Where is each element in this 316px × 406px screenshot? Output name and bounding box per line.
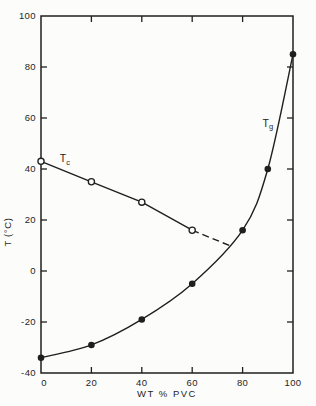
plot-frame: [41, 16, 293, 373]
tc-data-point-open-circle: [38, 158, 44, 164]
y-tick-label: 100: [19, 10, 36, 21]
tg-data-point-filled-circle: [239, 227, 246, 234]
tg-data-point-filled-circle: [290, 51, 297, 58]
tc-line: [41, 161, 192, 230]
tg-data-point-filled-circle: [265, 166, 272, 173]
tg-data-point-filled-circle: [88, 342, 95, 349]
tc-data-point-open-circle: [139, 199, 145, 205]
x-tick-label: 20: [86, 377, 97, 388]
tc-series-label: Tc: [60, 152, 70, 167]
x-tick-label: 0: [41, 377, 47, 388]
x-tick-label: 60: [187, 377, 198, 388]
tg-curve: [41, 54, 293, 357]
x-tick-label: 80: [237, 377, 248, 388]
y-axis-label: T (°C): [2, 218, 13, 247]
tg-data-point-filled-circle: [139, 316, 146, 323]
tc-data-point-open-circle: [88, 179, 94, 185]
x-tick-label: 40: [136, 377, 147, 388]
y-tick-label: 60: [25, 112, 36, 123]
y-tick-label: -40: [21, 367, 36, 378]
tc-dashed-extrapolation: [192, 230, 232, 247]
x-axis-label: WT % PVC: [137, 388, 197, 399]
y-tick-label: -20: [21, 316, 36, 327]
y-tick-label: 20: [25, 214, 36, 225]
line-chart: 100806040200-20-40020406080100WT % PVCT …: [0, 0, 316, 406]
x-tick-label: 100: [284, 377, 301, 388]
figure-container: 100806040200-20-40020406080100WT % PVCT …: [0, 0, 316, 406]
tg-data-point-filled-circle: [189, 280, 196, 287]
tg-data-point-filled-circle: [38, 354, 45, 361]
y-tick-label: 0: [30, 265, 36, 276]
tg-series-label: Tg: [263, 117, 274, 132]
y-tick-label: 40: [25, 163, 36, 174]
tc-data-point-open-circle: [189, 227, 195, 233]
y-tick-label: 80: [25, 61, 36, 72]
